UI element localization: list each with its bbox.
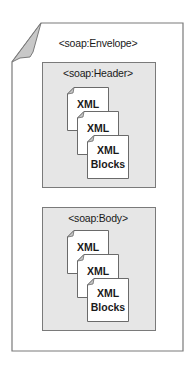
document-label: XML: [87, 287, 129, 300]
document-icon: [87, 278, 129, 322]
header-label: <soap:Header>: [63, 67, 133, 79]
document-label-line-2: Blocks: [87, 301, 129, 314]
document-icon: [87, 135, 129, 179]
document-label: XML: [87, 144, 129, 157]
document-label: XML: [77, 265, 119, 278]
header-xml-document-3: XML Blocks: [87, 135, 129, 179]
envelope-label: <soap:Envelope>: [59, 37, 138, 49]
soap-message-diagram: <soap:Envelope> <soap:Header> XML XML XM…: [0, 0, 195, 366]
document-label-line-2: Blocks: [87, 158, 129, 171]
document-label: XML: [67, 98, 109, 111]
body-label: <soap:Body>: [68, 212, 128, 224]
document-label: XML: [67, 241, 109, 254]
document-label: XML: [77, 122, 119, 135]
body-xml-document-3: XML Blocks: [87, 278, 129, 322]
